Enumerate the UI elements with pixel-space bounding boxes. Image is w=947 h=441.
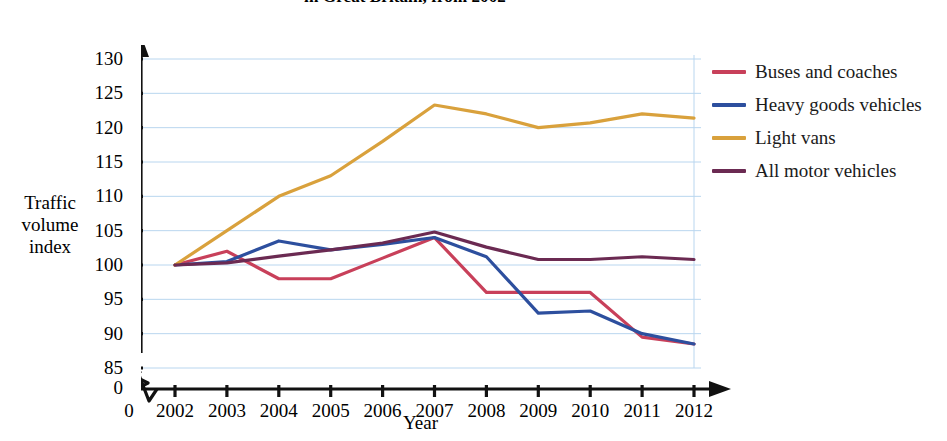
series-line-0 <box>175 238 694 344</box>
x-tick-label-2012: 2012 <box>664 401 724 420</box>
chart-figure: in Great Britain, from 2002 Traffic volu… <box>0 0 947 441</box>
y-tick-label-120: 120 <box>63 118 123 137</box>
y-axis-arrow <box>141 45 149 57</box>
plot-svg <box>141 45 741 405</box>
legend-item[interactable]: Light vans <box>712 121 944 154</box>
chart-legend: Buses and coachesHeavy goods vehiclesLig… <box>712 55 944 187</box>
y-tick-label-130: 130 <box>63 49 123 68</box>
y-tick-label-100: 100 <box>63 255 123 274</box>
chart-title-line-2: in Great Britain, from 2002 <box>95 0 715 6</box>
y-tick-label-85: 85 <box>63 358 123 377</box>
legend-item-label: Heavy goods vehicles <box>755 95 922 115</box>
legend-item-label: Light vans <box>755 128 836 148</box>
y-tick-label-105: 105 <box>63 221 123 240</box>
series-line-2 <box>175 105 694 265</box>
y-axis-origin-label: 0 <box>63 378 123 397</box>
legend-swatch-icon <box>712 103 746 107</box>
legend-item-label: Buses and coaches <box>755 62 897 82</box>
legend-swatch-icon <box>712 136 746 140</box>
y-tick-label-95: 95 <box>63 289 123 308</box>
x-axis-arrow <box>709 381 731 397</box>
legend-item[interactable]: Buses and coaches <box>712 55 944 88</box>
x-axis-origin-label: 0 <box>99 401 159 420</box>
legend-item[interactable]: All motor vehicles <box>712 154 944 187</box>
chart-title: in Great Britain, from 2002 <box>95 0 715 6</box>
y-tick-label-110: 110 <box>63 186 123 205</box>
legend-swatch-icon <box>712 70 746 74</box>
series-line-1 <box>175 238 694 344</box>
legend-item-label: All motor vehicles <box>755 161 896 181</box>
plot-area <box>141 45 700 368</box>
y-tick-label-115: 115 <box>63 152 123 171</box>
y-tick-label-90: 90 <box>63 324 123 343</box>
legend-swatch-icon <box>712 169 746 173</box>
legend-item[interactable]: Heavy goods vehicles <box>712 88 944 121</box>
y-tick-label-125: 125 <box>63 83 123 102</box>
